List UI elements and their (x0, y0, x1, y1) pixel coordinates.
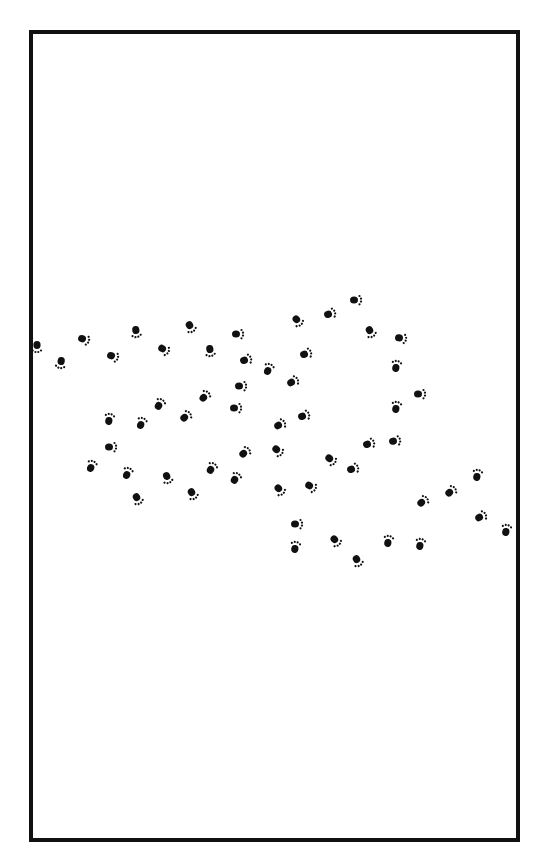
paw-print-icon (380, 534, 396, 550)
paw-print-icon (260, 362, 276, 378)
paw-print-icon (203, 461, 219, 477)
paw-print-icon (388, 400, 404, 416)
paw-print-icon (232, 378, 248, 394)
paw-print-icon (128, 323, 144, 339)
paw-print-icon (322, 451, 338, 467)
paw-print-icon (29, 338, 45, 354)
paw-print-icon (347, 292, 363, 308)
paw-print-icon (386, 433, 402, 449)
paw-print-icon (53, 354, 69, 370)
paw-print-icon (388, 359, 404, 375)
paw-print-icon (227, 400, 243, 416)
paw-print-icon (297, 346, 313, 362)
paw-print-icon (327, 532, 343, 548)
paw-print-icon (321, 306, 337, 322)
paw-print-icon (104, 348, 120, 364)
paw-print-icon (182, 318, 198, 334)
paw-print-icon (271, 417, 287, 433)
paw-print-icon (349, 552, 365, 568)
paw-print-icon (302, 478, 318, 494)
paw-print-icon (196, 389, 212, 405)
paw-print-icon (472, 509, 488, 525)
paw-print-icon (184, 485, 200, 501)
paw-print-icon (159, 469, 175, 485)
paw-print-icon (271, 481, 287, 497)
paw-print-icon (442, 484, 458, 500)
paw-print-icon (101, 412, 117, 428)
paw-print-icon (498, 523, 514, 539)
paw-print-icon (177, 409, 193, 425)
paw-print-icon (288, 516, 304, 532)
paw-print-icon (227, 471, 243, 487)
paw-print-icon (344, 461, 360, 477)
paw-print-icon (129, 490, 145, 506)
paw-print-icon (75, 331, 91, 347)
paw-print-icon (133, 416, 149, 432)
paw-print-icon (411, 386, 427, 402)
paw-print-icon (362, 323, 378, 339)
paw-print-icon (412, 537, 428, 553)
paw-print-icon (269, 442, 285, 458)
paw-print-icon (119, 466, 135, 482)
paw-print-icon (414, 494, 430, 510)
paw-print-icon (469, 468, 485, 484)
paw-print-icon (360, 436, 376, 452)
paw-print-icon (392, 330, 408, 346)
paw-print-icon (151, 397, 167, 413)
paw-print-icon (229, 326, 245, 342)
bordered-frame (29, 30, 520, 842)
paw-print-icon (284, 374, 300, 390)
paw-print-icon (289, 312, 305, 328)
paw-print-icon (155, 341, 171, 357)
paw-print-icon (295, 408, 311, 424)
paw-print-icon (102, 439, 118, 455)
paw-print-icon (83, 459, 99, 475)
paw-print-icon (237, 352, 253, 368)
paw-print-icon (236, 445, 252, 461)
paw-print-icon (287, 540, 303, 556)
paw-print-icon (202, 342, 218, 358)
